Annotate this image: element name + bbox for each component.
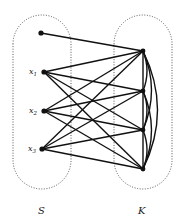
clique-edges [143, 51, 158, 169]
node-x2 [41, 108, 46, 113]
label-x2: x2 [29, 106, 38, 116]
set-label-S: S [38, 205, 45, 216]
set-S-outline [13, 15, 71, 189]
node-k3 [141, 128, 146, 133]
bipartite-edges [41, 33, 143, 169]
node-s0 [38, 30, 43, 35]
graph-diagram: x1 x2 x3 S K [0, 0, 181, 224]
node-k2 [141, 89, 146, 94]
label-x3: x3 [28, 144, 37, 154]
node-k1 [141, 49, 146, 54]
set-label-K: K [137, 205, 146, 216]
node-x1 [41, 69, 46, 74]
node-k4 [141, 167, 146, 172]
label-x1: x1 [29, 67, 37, 77]
node-x3 [39, 146, 44, 151]
